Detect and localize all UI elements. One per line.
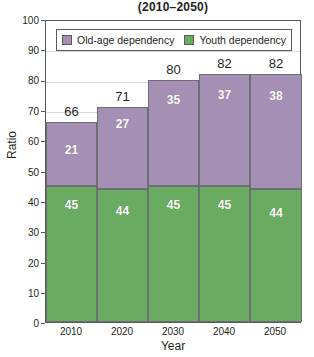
chart-title: (2010–2050) [45, 0, 301, 17]
x-tick-label-2010: 2010 [45, 326, 97, 337]
bar-segment-label-youth-2020: 44 [98, 204, 147, 218]
y-tick-label-80: 80 [12, 76, 39, 86]
bar-segment-youth-2040[interactable]: 45 [199, 186, 250, 322]
bar-total-label-2050: 82 [250, 56, 302, 71]
bar-2050[interactable]: 82 38 44 [250, 74, 302, 323]
bar-segment-label-old-age-2040: 37 [200, 88, 249, 102]
x-tick-label-2040: 2040 [198, 326, 250, 337]
bar-2020[interactable]: 71 27 44 [97, 107, 148, 322]
bar-segment-old-age-2050[interactable]: 38 [250, 74, 302, 189]
bar-segment-old-age-2020[interactable]: 27 [97, 107, 148, 189]
bar-segment-youth-2010[interactable]: 45 [46, 186, 97, 322]
bar-total-label-2020: 71 [97, 89, 148, 104]
legend-item-youth[interactable]: Youth dependency [184, 34, 286, 46]
y-tick-mark [41, 323, 45, 324]
legend-item-old-age[interactable]: Old-age dependency [62, 34, 175, 46]
bar-segment-old-age-2030[interactable]: 35 [148, 80, 199, 186]
bar-segment-youth-2030[interactable]: 45 [148, 186, 199, 322]
bar-segment-youth-2020[interactable]: 44 [97, 189, 148, 322]
bar-segment-label-youth-2050: 44 [251, 206, 301, 220]
chart-legend: Old-age dependency Youth dependency [56, 29, 292, 51]
gridline-90 [46, 51, 300, 52]
bar-segment-label-old-age-2020: 27 [98, 117, 147, 131]
bar-segment-label-youth-2010: 45 [47, 198, 96, 212]
legend-swatch-youth-icon [184, 35, 194, 45]
x-tick-label-2030: 2030 [147, 326, 199, 337]
bar-total-label-2030: 80 [148, 62, 199, 77]
legend-label-youth: Youth dependency [199, 34, 286, 46]
bar-segment-label-old-age-2030: 35 [149, 93, 198, 107]
bar-segment-label-old-age-2010: 21 [47, 143, 96, 157]
x-tick-label-2050: 2050 [249, 326, 301, 337]
y-axis-title: Ratio [5, 115, 19, 175]
stacked-bar-chart: (2010–2050) 100 90 80 70 60 50 40 30 20 … [0, 0, 314, 357]
bar-segment-old-age-2040[interactable]: 37 [199, 74, 250, 186]
y-tick-label-90: 90 [12, 46, 39, 56]
y-tick-label-30: 30 [12, 228, 39, 238]
y-tick-label-0: 0 [12, 319, 39, 329]
bar-segment-label-old-age-2050: 38 [251, 89, 301, 103]
bar-total-label-2010: 66 [46, 104, 97, 119]
bar-segment-label-youth-2030: 45 [149, 198, 198, 212]
plot-area: 66 21 45 71 27 44 80 [45, 20, 301, 323]
y-tick-label-100: 100 [12, 16, 39, 26]
x-tick-label-2020: 2020 [96, 326, 148, 337]
legend-label-old-age: Old-age dependency [77, 34, 175, 46]
bar-segment-label-youth-2040: 45 [200, 198, 249, 212]
bar-2010[interactable]: 66 21 45 [46, 122, 97, 322]
legend-swatch-old-age-icon [62, 35, 72, 45]
bar-segment-old-age-2010[interactable]: 21 [46, 122, 97, 186]
y-tick-label-40: 40 [12, 198, 39, 208]
y-tick-label-20: 20 [12, 259, 39, 269]
bar-2030[interactable]: 80 35 45 [148, 80, 199, 322]
x-axis-title: Year [45, 340, 301, 353]
bar-2040[interactable]: 82 37 45 [199, 74, 250, 323]
y-tick-label-10: 10 [12, 289, 39, 299]
bar-segment-youth-2050[interactable]: 44 [250, 189, 302, 322]
bar-total-label-2040: 82 [199, 56, 250, 71]
